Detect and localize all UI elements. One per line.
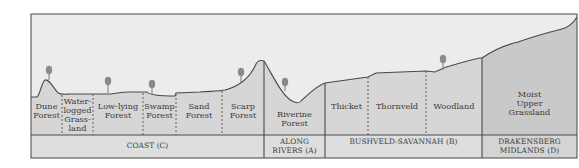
habitat-label-dune-forest: Dune Forest	[31, 102, 62, 120]
habitat-label-moist-upper-grassland: Moist Upper Grassland	[482, 90, 577, 117]
habitat-label-thicket: Thicket	[325, 102, 368, 111]
habitat-label-thornveld: Thornveld	[368, 102, 426, 111]
habitat-label-woodland: Woodland	[426, 102, 482, 111]
region-label-along-rivers: ALONG RIVERS (A)	[264, 138, 325, 155]
habitat-label-low-lying-forest: Low-lying Forest	[93, 102, 143, 120]
habitat-label-scarp-forest: Scarp Forest	[222, 102, 264, 120]
region-label-bushveld-savannah: BUSHVELD-SAVANNAH (B)	[325, 138, 482, 147]
vegetation-cross-section-diagram: Dune Forest Water- logged Grass- land Lo…	[0, 0, 579, 168]
region-label-coast: COAST (C)	[31, 142, 264, 151]
habitat-label-sand-forest: Sand Forest	[176, 102, 222, 120]
habitat-label-riverine-forest: Riverine Forest	[264, 110, 325, 128]
habitat-label-swamp-forest: Swamp Forest	[143, 102, 176, 120]
habitat-label-waterlogged-grassland: Water- logged Grass- land	[62, 97, 93, 133]
region-label-drakensberg-midlands: DRAKENSBERG MIDLANDS (D)	[482, 138, 577, 155]
